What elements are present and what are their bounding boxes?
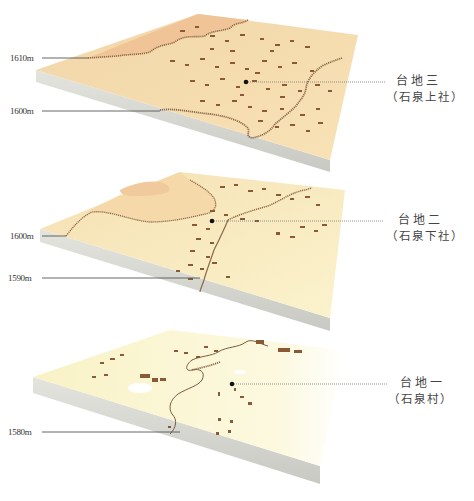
elevation-label-1610: 1610m [10,53,34,63]
elevation-label-1580: 1580m [8,427,32,437]
terrace-2-slab [40,172,345,331]
elevation-label-1600-b: 1600m [10,231,34,241]
terrace-diagram: 1610m 1600m 1600m 1590m 1580m 台地三 （石泉上社）… [0,0,474,501]
terrace-3-slab [36,14,358,172]
terrace-2-subtitle: （石泉下社） [386,227,464,243]
elevation-label-1590: 1590m [8,273,32,283]
terrace-3-subtitle: （石泉上社） [386,88,464,104]
terrace-2-name: 台地二 [398,210,443,227]
terrace-3-name: 台地三 [396,71,441,88]
terrace-1-slab [33,330,345,484]
terrace-1-subtitle: （石泉村） [388,390,453,406]
terrace-1-name: 台地一 [400,373,445,390]
elevation-label-1600: 1600m [10,106,34,116]
